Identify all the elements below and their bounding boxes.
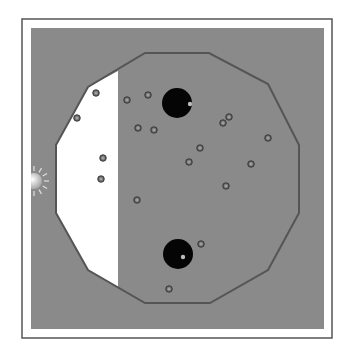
particle bbox=[93, 90, 100, 97]
particle bbox=[265, 135, 272, 142]
particle bbox=[74, 115, 81, 122]
dodecagon-particle-figure bbox=[0, 0, 351, 357]
particle bbox=[186, 159, 193, 166]
particle bbox=[226, 114, 233, 121]
particle bbox=[197, 145, 204, 152]
particle bbox=[134, 197, 141, 204]
particle bbox=[135, 125, 142, 132]
particle bbox=[220, 120, 227, 127]
particle bbox=[248, 161, 255, 168]
black-hole bbox=[162, 88, 192, 118]
particle bbox=[198, 241, 205, 248]
particle bbox=[100, 155, 107, 162]
particle bbox=[166, 286, 173, 293]
figure-canvas bbox=[0, 0, 351, 357]
particle bbox=[98, 176, 105, 183]
particle bbox=[145, 92, 152, 99]
black-hole bbox=[163, 239, 193, 269]
particle bbox=[151, 127, 158, 134]
particle bbox=[223, 183, 230, 190]
particle bbox=[124, 97, 131, 104]
